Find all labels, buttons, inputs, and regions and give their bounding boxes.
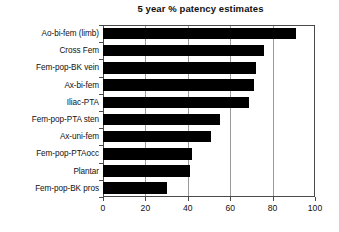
y-axis-tick: [99, 94, 103, 95]
y-axis-label-text: Iliac-PTA: [67, 98, 99, 107]
bar-row: [103, 111, 315, 128]
y-axis-label-text: Fem-pop-PTA sten: [32, 115, 99, 124]
chart-container: 5 year % patency estimates Ao-bi-fem (li…: [0, 0, 339, 232]
bar-3: [103, 79, 254, 90]
bar-row: [103, 145, 315, 162]
x-axis-tick: [103, 197, 104, 201]
bar-5: [103, 114, 220, 125]
x-axis-tick: [273, 197, 274, 201]
bar-6: [103, 131, 211, 142]
y-axis-label-3: Ax-bi-fem: [0, 77, 99, 94]
y-axis-label-6: Ax-uni-fem: [0, 128, 99, 145]
y-axis-label-8: Plantar: [0, 163, 99, 180]
bars-layer: [103, 25, 315, 197]
x-axis-tick: [230, 197, 231, 201]
y-axis-tick: [99, 180, 103, 181]
bar-row: [103, 59, 315, 76]
y-axis-label-2: Fem-pop-BK vein: [0, 59, 99, 76]
y-axis-label-text: Fem-pop-BK vein: [36, 63, 99, 72]
bar-row: [103, 163, 315, 180]
chart-title: 5 year % patency estimates: [0, 3, 339, 15]
y-axis-label-text: Fem-pop-BK pros: [35, 184, 99, 193]
x-axis-tick: [188, 197, 189, 201]
bar-7: [103, 148, 192, 159]
y-axis-tick: [99, 77, 103, 78]
y-axis-tick: [99, 42, 103, 43]
x-axis-tick-label: 40: [183, 203, 193, 213]
bar-9: [103, 182, 167, 193]
y-axis-label-text: Plantar: [73, 167, 99, 176]
y-axis-labels: Ao-bi-fem (limb) Cross Fem Fem-pop-BK ve…: [0, 25, 99, 197]
x-axis-tick-label: 0: [101, 203, 106, 213]
x-axis-tick: [145, 197, 146, 201]
bar-row: [103, 128, 315, 145]
x-axis-tick-label: 60: [225, 203, 235, 213]
y-axis-label-9: Fem-pop-BK pros: [0, 180, 99, 197]
y-axis-label-text: Ax-uni-fem: [60, 132, 99, 141]
y-axis-label-text: Fem-pop-PTAocc: [36, 149, 99, 158]
bar-row: [103, 42, 315, 59]
x-axis-tick-label: 80: [268, 203, 278, 213]
y-axis-label-7: Fem-pop-PTAocc: [0, 145, 99, 162]
y-axis-label-4: Iliac-PTA: [0, 94, 99, 111]
bar-8: [103, 165, 190, 176]
bar-row: [103, 25, 315, 42]
y-axis-tick: [99, 163, 103, 164]
y-axis-label-text: Cross Fem: [59, 46, 99, 55]
y-axis-tick: [99, 25, 103, 26]
bar-0: [103, 28, 296, 39]
y-axis-label-text: Ao-bi-fem (limb): [42, 29, 99, 38]
bar-2: [103, 62, 256, 73]
x-axis-tick: [315, 197, 316, 201]
bar-row: [103, 180, 315, 197]
y-axis-label-1: Cross Fem: [0, 42, 99, 59]
y-axis-label-5: Fem-pop-PTA sten: [0, 111, 99, 128]
bar-4: [103, 97, 249, 108]
y-axis-tick: [99, 145, 103, 146]
y-axis-tick: [99, 59, 103, 60]
bar-row: [103, 77, 315, 94]
bar-1: [103, 45, 264, 56]
y-axis-label-0: Ao-bi-fem (limb): [0, 25, 99, 42]
x-axis-tick-label: 100: [308, 203, 322, 213]
y-axis-label-text: Ax-bi-fem: [64, 81, 99, 90]
y-axis-tick: [99, 111, 103, 112]
bar-row: [103, 94, 315, 111]
x-axis-tick-label: 20: [141, 203, 151, 213]
y-axis-tick: [99, 128, 103, 129]
